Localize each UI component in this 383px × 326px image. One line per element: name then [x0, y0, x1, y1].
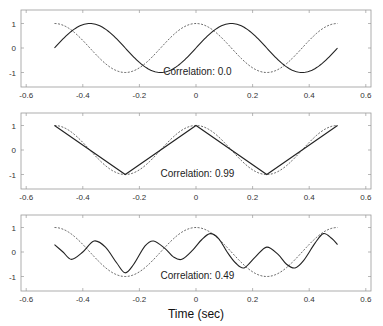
y-tick-label: 1 [12, 224, 17, 233]
figure: -0.6-0.4-0.200.20.40.610-1Correlation: 0… [0, 0, 383, 326]
x-tick-label: 0.6 [360, 91, 372, 100]
x-tick-label: 0.2 [247, 193, 259, 202]
subplot-2: -0.6-0.4-0.200.20.40.610-1Correlation: 0… [9, 113, 372, 202]
x-tick-label: -0.2 [133, 193, 147, 202]
y-tick-label: 0 [12, 44, 17, 53]
signal-curve [55, 234, 338, 273]
x-tick-label: 0.4 [304, 91, 316, 100]
x-tick-label: -0.4 [76, 295, 90, 304]
y-tick-label: 0 [12, 248, 17, 257]
x-tick-label: -0.6 [19, 193, 33, 202]
y-tick-label: -1 [9, 171, 17, 180]
y-tick-label: 1 [12, 122, 17, 131]
x-tick-label: 0.2 [247, 295, 259, 304]
x-tick-label: -0.6 [19, 295, 33, 304]
x-tick-label: 0.6 [360, 295, 372, 304]
correlation-annotation: Correlation: 0.49 [160, 270, 234, 281]
x-tick-label: 0.4 [304, 193, 316, 202]
correlation-annotation: Correlation: 0.99 [160, 168, 234, 179]
y-tick-label: 1 [12, 20, 17, 29]
subplot-1: -0.6-0.4-0.200.20.40.610-1Correlation: 0… [9, 10, 372, 100]
x-tick-label: 0.4 [304, 295, 316, 304]
y-tick-label: -1 [9, 273, 17, 282]
x-tick-label: -0.4 [76, 193, 90, 202]
x-tick-label: 0 [194, 295, 199, 304]
x-tick-label: 0.6 [360, 193, 372, 202]
x-axis-label: Time (sec) [168, 307, 224, 321]
x-tick-label: -0.4 [76, 91, 90, 100]
x-tick-label: 0 [194, 193, 199, 202]
x-tick-label: -0.2 [133, 91, 147, 100]
x-tick-label: -0.6 [19, 91, 33, 100]
x-tick-label: 0 [194, 91, 199, 100]
x-tick-label: 0.2 [247, 91, 259, 100]
y-tick-label: -1 [9, 69, 17, 78]
x-tick-label: -0.2 [133, 295, 147, 304]
subplot-3: -0.6-0.4-0.200.20.40.610-1Correlation: 0… [9, 215, 372, 304]
y-tick-label: 0 [12, 146, 17, 155]
correlation-annotation: Correlation: 0.0 [163, 66, 232, 77]
